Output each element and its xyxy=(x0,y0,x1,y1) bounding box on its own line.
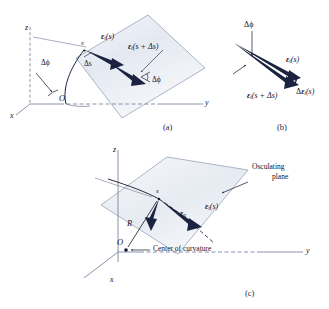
panel-a-vector-label-et-s: εt(s) xyxy=(101,33,114,42)
panel-a-axis-label-x: x xyxy=(10,112,14,120)
panel-b-vertex-leader xyxy=(233,65,246,74)
panel-a-axis-label-y: y xyxy=(205,99,209,107)
panel-a-axis-label-z: z xyxy=(25,24,28,32)
panel-c-osculating-plane-label-line1: Osculating xyxy=(252,163,285,171)
panel-a-angle-label-origin: Δϕ xyxy=(41,59,50,67)
panel-c-axis-label-y: y xyxy=(306,247,310,255)
panel-a-plane xyxy=(76,15,205,118)
panel-a-x-axis xyxy=(16,104,30,115)
panel-a-angle-arc-origin xyxy=(48,90,58,96)
panel-b-et-s-arg: (s) xyxy=(291,55,299,64)
panel-a-et-sds-arg: (s + Δs) xyxy=(133,42,159,51)
panel-c-caption: (c) xyxy=(245,289,254,298)
panel-a-vector-label-et-s-ds: εt(s + Δs) xyxy=(128,43,158,52)
panel-c-vector-label-en: εn xyxy=(180,210,186,219)
panel-c-axis-label-x: x xyxy=(110,276,114,284)
panel-c-center-of-curvature-dot xyxy=(124,248,128,252)
panel-b-caption: (b) xyxy=(277,123,287,132)
panel-b-et-sds-arg: (s + Δs) xyxy=(252,91,278,100)
panel-b-vector-label-et-s-ds: εt(s + Δs) xyxy=(247,92,277,101)
panel-a-point-s xyxy=(83,49,85,51)
panel-a-origin-label: O xyxy=(59,94,65,103)
panel-c-et-arg: (s) xyxy=(210,202,218,211)
figure-artwork xyxy=(0,0,329,309)
panel-b-vector-label-delta-et: Δεt(s) xyxy=(296,88,314,97)
panel-c-axis-label-z: z xyxy=(113,146,116,154)
panel-b-delta-et-arg: (s) xyxy=(306,87,314,96)
panel-a-et-s-arg: (s) xyxy=(106,32,114,41)
figure-container: z x y O s Δϕ Δϕ Δs εt(s) εt(s + Δs) (a) … xyxy=(0,0,329,309)
panel-b-vector-label-et-s: εt(s) xyxy=(286,56,299,65)
panel-a-angle-leader-origin xyxy=(36,73,52,92)
panel-a-angle-label-tip: Δϕ xyxy=(152,76,161,84)
panel-b-vector-et-s-ds xyxy=(234,43,293,87)
panel-c-vector-label-et: εt(s) xyxy=(205,203,218,212)
panel-a-plane-leader xyxy=(33,37,86,47)
panel-a-point-label-s: s xyxy=(81,40,84,47)
panel-a-caption: (a) xyxy=(163,123,172,132)
panel-b-angle-label: Δϕ xyxy=(244,21,253,29)
panel-c-en-subscript: n xyxy=(183,212,186,218)
panel-c-radius-label: R xyxy=(127,219,132,228)
panel-a-arc-length-label: Δs xyxy=(84,60,92,68)
panel-c-point-label-s: s xyxy=(156,188,159,195)
panel-c-origin-label: O xyxy=(117,238,123,247)
panel-c-osculating-plane-label-line2: plane xyxy=(272,173,288,181)
panel-c-center-of-curvature-label: Center of curvature xyxy=(153,245,211,253)
